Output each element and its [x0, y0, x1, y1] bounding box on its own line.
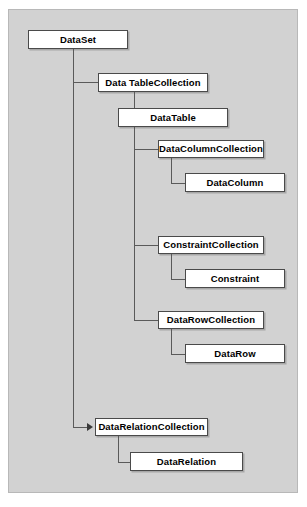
- connector-trunk-dataset: [73, 49, 74, 428]
- node-datacolumn[interactable]: DataColumn: [185, 173, 285, 192]
- connector-dt-to-drowc: [134, 320, 158, 321]
- connector-trunk-cc: [171, 254, 172, 279]
- connector-dataset-to-dtc: [73, 82, 98, 83]
- node-dataset[interactable]: DataSet: [28, 30, 128, 49]
- node-constraint[interactable]: Constraint: [185, 269, 285, 288]
- node-datarow[interactable]: DataRow: [185, 344, 285, 363]
- connector-dt-to-cc: [134, 245, 158, 246]
- node-datatable[interactable]: DataTable: [118, 108, 228, 127]
- arrow-to-datarelationcollection-icon: [87, 423, 93, 431]
- node-datatablecollection[interactable]: Data TableCollection: [98, 73, 208, 92]
- connector-dt-to-dcc: [134, 149, 158, 150]
- node-datacolumncollection[interactable]: DataColumnCollection: [158, 140, 264, 158]
- node-datarelationcollection[interactable]: DataRelationCollection: [95, 418, 208, 436]
- connector-trunk-dcc: [171, 158, 172, 183]
- connector-trunk-drowc: [171, 329, 172, 354]
- connector-dataset-to-drc: [73, 427, 88, 428]
- node-constraintcollection[interactable]: ConstraintCollection: [158, 236, 264, 254]
- diagram-panel: DataSetData TableCollectionDataTableData…: [8, 9, 298, 493]
- node-datarelation[interactable]: DataRelation: [130, 452, 243, 471]
- diagram-canvas: DataSetData TableCollectionDataTableData…: [0, 0, 307, 507]
- node-datarowcollection[interactable]: DataRowCollection: [158, 311, 264, 329]
- connector-trunk-drc: [118, 436, 119, 462]
